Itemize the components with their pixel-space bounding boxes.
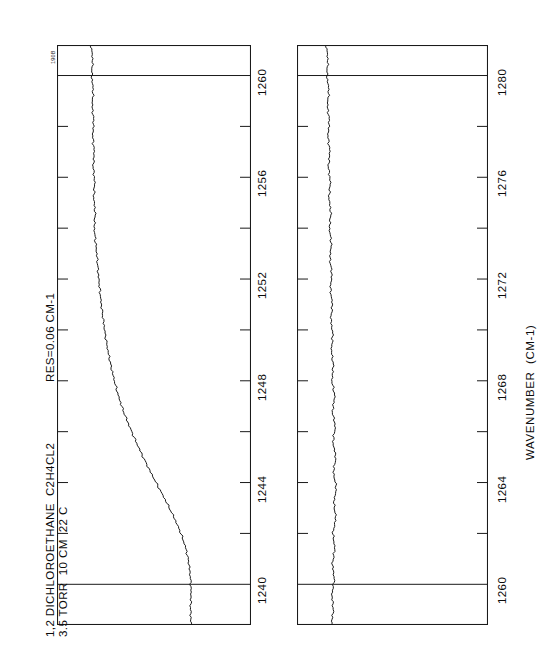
tick-label: 1280 [496, 68, 508, 95]
spectrum-figure: 190B 126012561252124812441240 1280127612… [0, 0, 548, 661]
tick-label: 1248 [256, 374, 268, 401]
tick-label: 1272 [496, 272, 508, 299]
tick-label: 1268 [496, 374, 508, 401]
sample-name-line: 1,2 DICHLOROETHANE C2H4CL2 [44, 443, 56, 637]
plot-panel-upper-range [297, 45, 488, 625]
sample-conditions-line: 3.5 TORR 10 CM 22 C [57, 506, 69, 637]
x-axis-title: WAVENUMBER (CM-1) [524, 325, 536, 460]
tick-label: 1260 [256, 68, 268, 95]
tick-label: 1244 [256, 475, 268, 502]
plot-panel-lower-range [57, 45, 251, 625]
tick-label: 1276 [496, 170, 508, 197]
tick-label: 1260 [496, 577, 508, 604]
tick-label: 1252 [256, 272, 268, 299]
figure-corner-code: 190B [50, 50, 56, 64]
plot-area-upper-range [297, 45, 488, 625]
tick-label: 1264 [496, 475, 508, 502]
plot-area-lower-range [57, 45, 251, 625]
resolution-annotation: RES=0.06 CM-1 [44, 293, 56, 382]
tick-label: 1240 [256, 577, 268, 604]
tick-label: 1256 [256, 170, 268, 197]
